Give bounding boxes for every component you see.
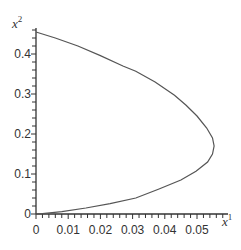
x-tick-label: 0.02 xyxy=(89,223,113,237)
data-curve xyxy=(36,32,214,214)
x-tick-label: 0.04 xyxy=(153,223,177,237)
y-tick-label: 0 xyxy=(24,207,31,221)
tick-labels: 00.010.020.030.040.0500.10.20.30.4 xyxy=(14,47,209,237)
y-tick-label: 0.1 xyxy=(14,167,31,181)
x-tick-label: 0.05 xyxy=(185,223,209,237)
y-tick-label: 0.4 xyxy=(14,47,31,61)
x-axis-label: x1 xyxy=(221,212,232,229)
y-tick-label: 0.3 xyxy=(14,87,31,101)
x-tick-label: 0 xyxy=(33,223,40,237)
axes xyxy=(36,28,228,214)
y-tick-label: 0.2 xyxy=(14,127,31,141)
axis-ticks xyxy=(31,30,223,219)
chart-canvas: 00.010.020.030.040.0500.10.20.30.4 x2 x1 xyxy=(0,0,241,250)
x-tick-label: 0.01 xyxy=(57,223,81,237)
x-tick-label: 0.03 xyxy=(121,223,145,237)
y-axis-label: x2 xyxy=(11,14,22,31)
